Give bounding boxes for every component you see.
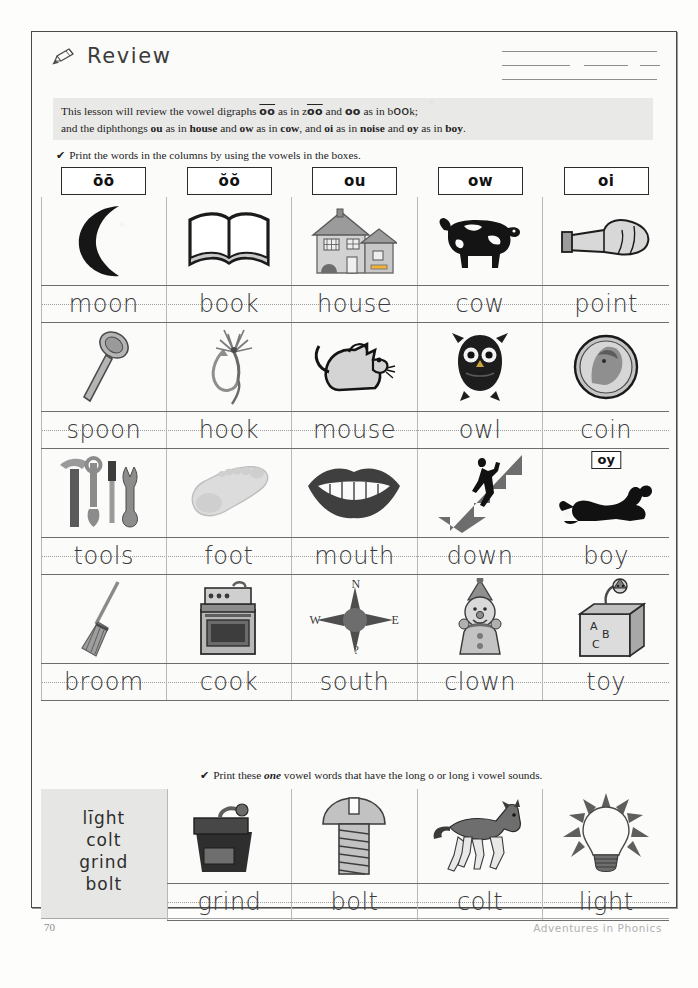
vowel-cell-3: ow (418, 167, 544, 195)
answer-cell[interactable]: broom (41, 664, 167, 700)
foot-icon (183, 457, 275, 529)
publisher-credit: Adventures in Phonics (533, 922, 662, 934)
answer-cell[interactable]: cook (167, 664, 293, 700)
picture-cell-colt (418, 789, 544, 883)
vowel-cell-0: ōō (41, 167, 167, 195)
name-line-1 (502, 51, 657, 52)
answer-cell[interactable]: moon (41, 286, 167, 322)
oo-short-glyph: oo (345, 105, 361, 118)
picture-cell-broom (41, 575, 167, 663)
answer-word: colt (457, 885, 503, 919)
picture-cell-coin (543, 323, 669, 411)
answer-word: down (447, 539, 514, 573)
vowel-box-ow[interactable]: ow (438, 167, 523, 195)
fishing-hook-icon (194, 326, 264, 408)
vowel-box-oi[interactable]: oi (564, 167, 649, 195)
answer-word: toy (586, 665, 626, 699)
spoon-icon (72, 327, 136, 407)
picture-cell-mouth (292, 449, 418, 537)
picture-cell-down-stairs (418, 449, 544, 537)
answer-word: hook (199, 413, 259, 447)
answer-cell[interactable]: mouse (292, 412, 418, 448)
answer-cell[interactable]: grind (167, 884, 293, 920)
answer-cell[interactable]: house (292, 286, 418, 322)
picture-cell-owl (418, 323, 544, 411)
picture-cell-jack-in-the-box: A B C (543, 575, 669, 663)
checkmark-icon: ✔ (200, 769, 209, 782)
answer-cell[interactable]: owl (418, 412, 544, 448)
vowel-label: oi (598, 172, 614, 190)
answer-cell[interactable]: south (292, 664, 418, 700)
answer-cell[interactable]: bolt (292, 884, 418, 920)
answer-word: foot (204, 539, 253, 573)
answer-word: boy (583, 539, 629, 573)
picture-cell-clown (418, 575, 544, 663)
vowel-label: ou (344, 172, 366, 190)
vowel-cell-4: oi (543, 167, 669, 195)
answer-word: cow (456, 287, 505, 321)
vowel-box-ou[interactable]: ou (312, 167, 397, 195)
answer-cell[interactable]: spoon (41, 412, 167, 448)
picture-cell-hook (167, 323, 293, 411)
answer-cell[interactable]: foot (167, 538, 293, 574)
coffee-grinder-icon (186, 796, 272, 876)
word-bank-item: grind (79, 852, 128, 872)
answer-cell[interactable]: book (167, 286, 293, 322)
answer-cell[interactable]: mouth (292, 538, 418, 574)
intro-line-2: and the diphthongs ou as in house and ow… (61, 120, 645, 136)
open-book-icon (186, 206, 272, 276)
worksheet-header: Review (32, 32, 676, 90)
coin-icon (570, 331, 642, 403)
answer-cell[interactable]: clown (418, 664, 544, 700)
answer-cell[interactable]: colt (418, 884, 544, 920)
answer-word: point (574, 287, 638, 321)
svg-text:A: A (590, 620, 598, 633)
name-line-4 (640, 65, 660, 66)
vowel-box-oo-long[interactable]: ōō (61, 167, 146, 195)
jack-in-the-box-icon: A B C (566, 578, 646, 660)
bolt-screw-icon (317, 794, 391, 878)
vowel-cell-2: ou (292, 167, 418, 195)
direction-bottom-pre: Print these (213, 769, 264, 781)
answer-row-2: spoon hook mouse owl coin (41, 411, 669, 449)
answer-cell[interactable]: tools (41, 538, 167, 574)
picture-cell-tools (41, 449, 167, 537)
direction-top: ✔Print the words in the columns by using… (56, 149, 361, 162)
picture-cell-spoon (41, 323, 167, 411)
mouse-icon (309, 332, 399, 402)
bottom-picture-row (167, 789, 669, 883)
answer-cell[interactable]: light (543, 884, 669, 920)
stove-icon (191, 580, 267, 658)
title-group: Review (52, 44, 172, 68)
vowel-label: ōō (93, 172, 115, 190)
direction-top-text: Print the words in the columns by using … (69, 149, 361, 161)
answer-word: bolt (330, 885, 378, 919)
vowel-box-oo-short[interactable]: ŏŏ (187, 167, 272, 195)
answer-cell[interactable]: toy (543, 664, 669, 700)
svg-text:B: B (602, 628, 610, 641)
intro-line-1: This lesson will review the vowel digrap… (61, 103, 645, 120)
answer-cell[interactable]: cow (418, 286, 544, 322)
mouth-icon (304, 462, 404, 524)
answer-cell[interactable]: down (418, 538, 544, 574)
answer-word: owl (459, 413, 501, 447)
picture-cell-bolt (292, 789, 418, 883)
picture-cell-moon (41, 197, 167, 285)
answer-word: grind (197, 885, 261, 919)
word-bank-item: līght (82, 808, 125, 828)
zoo-oo-glyph: oo (307, 105, 323, 118)
answer-cell[interactable]: point (543, 286, 669, 322)
oy-vowel-box[interactable]: oy (591, 451, 620, 469)
down-stairs-icon (436, 453, 524, 533)
answer-word: house (317, 287, 392, 321)
moon-icon (69, 202, 139, 280)
picture-cell-compass: N W E ? (292, 575, 418, 663)
answer-cell[interactable]: coin (543, 412, 669, 448)
answer-cell[interactable]: hook (167, 412, 293, 448)
word-bank-box: līght colt grind bolt (41, 789, 167, 919)
picture-cell-mouse (292, 323, 418, 411)
answer-cell[interactable]: boy (543, 538, 669, 574)
answer-word: clown (444, 665, 516, 699)
broom-icon (74, 578, 134, 660)
picture-cell-foot (167, 449, 293, 537)
